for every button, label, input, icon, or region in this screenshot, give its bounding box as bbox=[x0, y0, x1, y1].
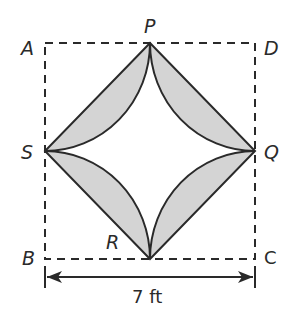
label-B: B bbox=[22, 247, 35, 269]
label-P: P bbox=[144, 15, 156, 37]
label-Q: Q bbox=[264, 141, 279, 163]
diamond-pqrs bbox=[45, 43, 255, 259]
label-R: R bbox=[106, 231, 119, 253]
label-S: S bbox=[21, 141, 33, 163]
dimension-label: 7 ft bbox=[132, 286, 162, 307]
label-D: D bbox=[264, 37, 279, 59]
label-C: C bbox=[264, 247, 277, 268]
shaded-regions bbox=[45, 43, 255, 259]
dimension-arrow bbox=[45, 266, 255, 288]
label-A: A bbox=[19, 37, 34, 59]
geometry-figure: A P D S Q R B C 7 ft bbox=[0, 0, 292, 318]
quarter-arcs bbox=[45, 43, 255, 259]
dashed-square bbox=[45, 43, 255, 259]
